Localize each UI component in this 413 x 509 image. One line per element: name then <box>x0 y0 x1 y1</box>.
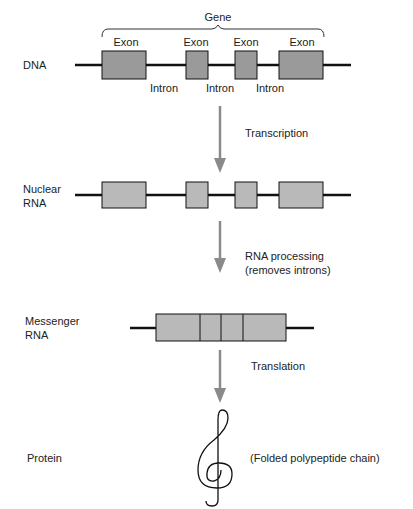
gene-label: Gene <box>205 11 232 23</box>
exon-label: Exon <box>183 36 208 48</box>
dna-exon-4 <box>279 51 323 79</box>
intron-label: Intron <box>256 82 284 94</box>
protein-row: Protein (Folded polypeptide chain) <box>27 410 380 506</box>
exon-label: Exon <box>113 36 138 48</box>
dna-exon-1 <box>102 51 146 79</box>
mrna-label-line2: RNA <box>25 329 49 341</box>
exon-label: Exon <box>289 36 314 48</box>
rna-processing-step: RNA processing (removes introns) <box>214 221 331 276</box>
dna-exon-3 <box>235 51 257 79</box>
gene-expression-diagram: Gene DNA Exon Exon Exon Exon Intron Intr… <box>0 0 413 509</box>
rna-processing-label-line1: RNA processing <box>245 250 324 262</box>
rna-exon-2 <box>186 182 208 208</box>
rna-exon-1 <box>102 182 146 208</box>
intron-label: Intron <box>150 82 178 94</box>
transcription-step: Transcription <box>214 106 308 173</box>
nuclear-rna-label-line2: RNA <box>23 197 47 209</box>
folded-protein-icon <box>198 410 232 506</box>
rna-exon-4 <box>279 182 323 208</box>
nuclear-rna-label-line1: Nuclear <box>23 183 61 195</box>
rna-processing-label-line2: (removes introns) <box>245 264 331 276</box>
arrowhead-icon <box>214 388 226 403</box>
protein-label: Protein <box>27 452 62 464</box>
mrna-label-line1: Messenger <box>25 315 80 327</box>
dna-row: DNA Exon Exon Exon Exon Intron Intron In… <box>23 36 351 94</box>
exon-label: Exon <box>233 36 258 48</box>
intron-label: Intron <box>206 82 234 94</box>
rna-exon-3 <box>235 182 257 208</box>
transcription-label: Transcription <box>245 127 308 139</box>
translation-step: Translation <box>214 350 305 403</box>
translation-label: Translation <box>251 360 305 372</box>
arrowhead-icon <box>214 258 226 273</box>
dna-label: DNA <box>23 59 47 71</box>
arrowhead-icon <box>214 158 226 173</box>
nuclear-rna-row: Nuclear RNA <box>23 182 351 209</box>
dna-exon-2 <box>186 51 208 79</box>
messenger-rna-row: Messenger RNA <box>25 314 314 341</box>
gene-brace: Gene <box>102 11 324 37</box>
protein-description: (Folded polypeptide chain) <box>250 452 380 464</box>
